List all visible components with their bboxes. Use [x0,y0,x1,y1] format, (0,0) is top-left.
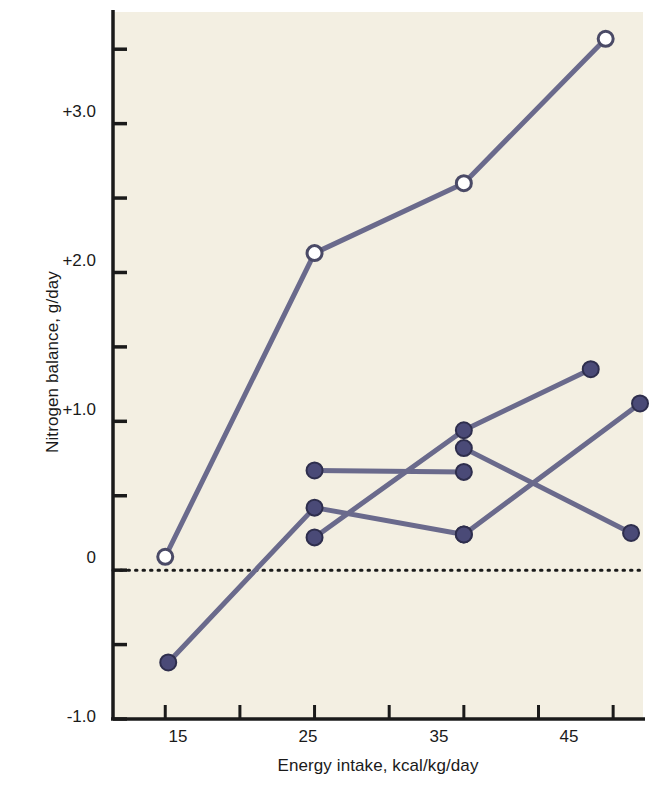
x-tick-label-35: 35 [409,727,469,747]
nitrogen-balance-chart: +3.0 +2.0 +1.0 0 -1.0 15 25 35 45 Nitrog… [0,0,662,791]
y-tick-label-3: +3.0 [26,102,96,122]
x-axis-title: Energy intake, kcal/kg/day [113,756,643,776]
chart-canvas [0,0,662,791]
y-tick-label-0: 0 [26,548,96,568]
y-tick-label-neg1: -1.0 [26,707,96,727]
x-tick-label-25: 25 [278,727,338,747]
plot-area-background [113,12,643,719]
x-tick-label-45: 45 [539,727,599,747]
y-axis-title: Nitrogen balance, g/day [43,237,63,487]
x-tick-label-15: 15 [148,727,208,747]
